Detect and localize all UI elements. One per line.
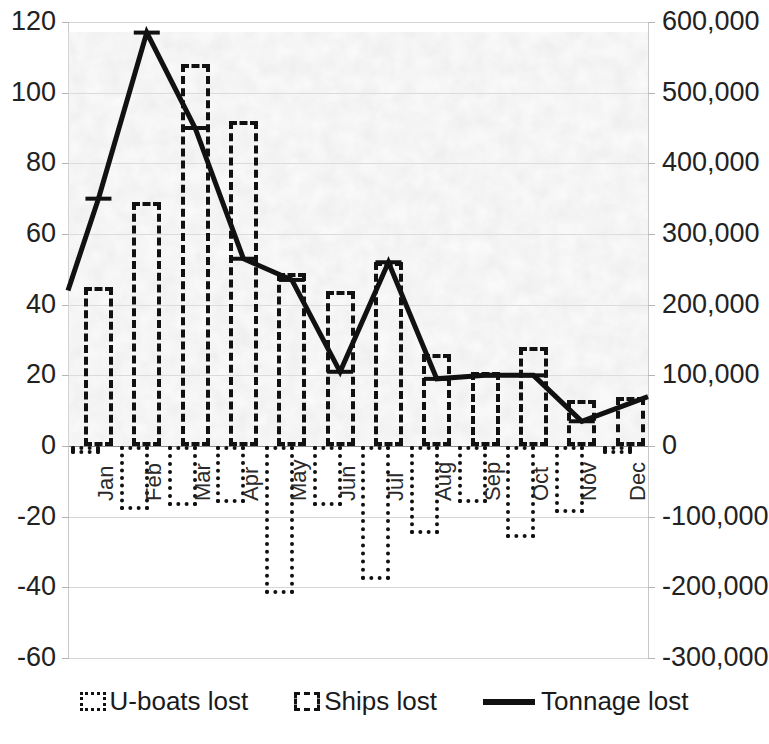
bar-ships-lost xyxy=(132,202,161,446)
right-axis-tick xyxy=(648,163,655,164)
right-axis-tick-label: 500,000 xyxy=(662,79,760,106)
left-axis-tick-label: 100 xyxy=(11,79,56,106)
bar-ships-lost xyxy=(567,400,596,446)
bar-ships-lost xyxy=(181,64,210,446)
bar-uboats-lost xyxy=(71,446,100,454)
left-axis-tick-label: 60 xyxy=(26,220,56,247)
gridline xyxy=(68,658,648,659)
left-axis-tick xyxy=(62,658,69,659)
legend-item-2[interactable]: Ships lost xyxy=(294,686,437,717)
bar-ships-lost xyxy=(422,354,451,446)
category-label-dec: Dec xyxy=(627,462,649,501)
left-axis-tick-label: 20 xyxy=(26,361,56,388)
category-label-jun: Jun xyxy=(337,466,359,501)
bar-ships-lost xyxy=(374,262,403,446)
legend-label: Tonnage lost xyxy=(541,686,688,717)
right-axis-tick xyxy=(648,446,655,447)
bar-ships-lost xyxy=(616,397,645,446)
right-axis-tick xyxy=(648,517,655,518)
dashed-box-icon xyxy=(294,692,320,711)
chart-legend: U-boats lostShips lostTonnage lost xyxy=(0,686,768,717)
right-axis-tick-label: 200,000 xyxy=(662,291,760,318)
right-axis-tick-label: 100,000 xyxy=(662,361,760,388)
bar-ships-lost xyxy=(84,287,113,446)
plot-area xyxy=(68,22,648,658)
right-axis-tick-label: -100,000 xyxy=(662,503,769,530)
right-axis-tick xyxy=(648,375,655,376)
category-label-apr: Apr xyxy=(240,467,262,501)
right-axis-tick-label: 600,000 xyxy=(662,8,760,35)
bar-uboats-lost xyxy=(603,446,632,454)
category-label-may: May xyxy=(288,459,310,501)
right-axis-tick-label: 400,000 xyxy=(662,149,760,176)
right-axis-tick-label: 300,000 xyxy=(662,220,760,247)
category-label-aug: Aug xyxy=(433,462,455,501)
bar-ships-lost xyxy=(471,372,500,446)
right-axis-tick xyxy=(648,658,655,659)
bar-ships-lost xyxy=(277,273,306,446)
right-axis-tick xyxy=(648,22,655,23)
legend-item-1[interactable]: U-boats lost xyxy=(80,686,249,717)
category-label-nov: Nov xyxy=(578,462,600,501)
left-axis-tick-label: 80 xyxy=(26,149,56,176)
chart-title-faint xyxy=(60,0,480,10)
bar-ships-lost xyxy=(229,121,258,446)
legend-item-3[interactable]: Tonnage lost xyxy=(483,686,688,717)
right-axis-tick-label: -300,000 xyxy=(662,644,769,671)
right-axis-tick xyxy=(648,93,655,94)
category-label-sep: Sep xyxy=(482,462,504,501)
right-axis-tick-label: 0 xyxy=(662,432,677,459)
legend-label: Ships lost xyxy=(324,686,437,717)
category-label-feb: Feb xyxy=(143,463,165,501)
right-axis-tick xyxy=(648,305,655,306)
category-label-mar: Mar xyxy=(192,463,214,501)
solid-line-icon xyxy=(483,699,535,705)
legend-label: U-boats lost xyxy=(110,686,249,717)
bar-uboats-lost xyxy=(361,446,390,580)
dotted-box-icon xyxy=(80,692,106,711)
left-axis-tick-label: -60 xyxy=(17,644,56,671)
left-axis-tick-label: 120 xyxy=(11,8,56,35)
category-label-oct: Oct xyxy=(530,467,552,501)
right-axis-tick xyxy=(648,587,655,588)
bar-ships-lost xyxy=(326,291,355,446)
left-axis-tick-label: -20 xyxy=(17,503,56,530)
bar-ships-lost xyxy=(519,347,548,446)
right-axis-line xyxy=(648,22,649,658)
left-axis-tick-label: 40 xyxy=(26,291,56,318)
left-axis-tick-label: 0 xyxy=(41,432,56,459)
category-label-jul: Jul xyxy=(385,473,407,501)
category-label-jan: Jan xyxy=(95,466,117,501)
right-axis-tick-label: -200,000 xyxy=(662,573,769,600)
right-axis-tick xyxy=(648,234,655,235)
left-axis-tick-label: -40 xyxy=(17,573,56,600)
